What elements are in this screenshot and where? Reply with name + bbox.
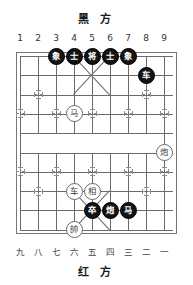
file-label: 7 [121,33,135,43]
board-grid: 象士将士象车马炮车相卒炮马帥 [20,56,173,230]
xiangqi-board-figure: 黑 方 123456789 象士将士象车马炮车相卒炮马帥 九八七六五四三二一 红… [0,0,193,285]
grid-file-line [110,56,111,133]
piece-glyph: 车 [70,187,78,195]
piece-glyph: 象 [52,52,60,60]
file-label: 六 [67,245,81,257]
piece-glyph: 帥 [70,226,78,234]
star-point-marker [52,109,61,118]
black-chariot-c8[interactable]: 车 [138,67,155,84]
black-side-caption: 黑 方 [0,10,193,26]
grid-file-line [128,56,129,133]
piece-glyph: 炮 [160,148,168,156]
file-label: 一 [157,245,171,257]
piece-glyph: 卒 [88,206,96,214]
red-horse-c4[interactable]: 马 [66,105,83,122]
file-label: 6 [103,33,117,43]
star-point-marker [142,187,151,196]
grid-file-line [56,153,57,230]
file-label: 3 [49,33,63,43]
file-label: 五 [85,245,99,257]
grid-rank-line [20,172,173,173]
grid-rank-line [20,114,173,115]
star-point-marker [160,109,169,118]
grid-file-line [164,56,165,230]
star-point-marker [160,167,169,176]
piece-glyph: 将 [88,52,96,60]
file-label: 2 [31,33,45,43]
star-point-marker [16,167,25,176]
grid-rank-line [20,230,173,231]
red-elephant-c5[interactable]: 相 [84,183,101,200]
grid-rank-line [20,133,173,134]
file-label: 九 [13,245,27,257]
piece-glyph: 马 [70,110,78,118]
red-side-caption: 红 方 [0,263,193,279]
piece-glyph: 士 [106,52,114,60]
star-point-marker [124,109,133,118]
black-pawn-c5[interactable]: 卒 [84,202,101,219]
file-labels-bottom: 九八七六五四三二一 [0,245,193,257]
piece-glyph: 车 [142,71,150,79]
piece-glyph: 相 [88,187,96,195]
star-point-marker [16,109,25,118]
grid-file-line [56,56,57,133]
black-general-c5[interactable]: 将 [84,48,101,65]
file-label: 四 [103,245,117,257]
red-chariot-c4[interactable]: 车 [66,183,83,200]
star-point-marker [142,90,151,99]
file-label: 二 [139,245,153,257]
file-label: 4 [67,33,81,43]
piece-glyph: 炮 [106,206,114,214]
file-label: 七 [49,245,63,257]
star-point-marker [52,167,61,176]
file-labels-top: 123456789 [0,33,193,45]
black-horse-c7[interactable]: 马 [120,202,137,219]
piece-glyph: 象 [124,52,132,60]
black-advisor-c6[interactable]: 士 [102,48,119,65]
black-advisor-c4[interactable]: 士 [66,48,83,65]
star-point-marker [88,167,97,176]
star-point-marker [34,90,43,99]
file-label: 八 [31,245,45,257]
grid-file-line [92,56,93,133]
black-elephant-c7[interactable]: 象 [120,48,137,65]
black-elephant-c3[interactable]: 象 [48,48,65,65]
red-general-c4[interactable]: 帥 [66,221,83,238]
piece-glyph: 马 [124,206,132,214]
star-point-marker [88,109,97,118]
piece-glyph: 士 [70,52,78,60]
file-label: 1 [13,33,27,43]
black-cannon-c6[interactable]: 炮 [102,202,119,219]
file-label: 9 [157,33,171,43]
star-point-marker [124,167,133,176]
red-cannon-c9[interactable]: 炮 [156,144,173,161]
grid-rank-line [20,153,173,154]
file-label: 8 [139,33,153,43]
grid-file-line [20,56,21,230]
star-point-marker [34,187,43,196]
file-label: 5 [85,33,99,43]
file-label: 三 [121,245,135,257]
